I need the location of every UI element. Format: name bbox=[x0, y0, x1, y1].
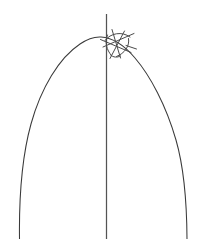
drawing-canvas: fig 4 2014 bbox=[0, 0, 212, 239]
figure-svg bbox=[0, 0, 212, 239]
